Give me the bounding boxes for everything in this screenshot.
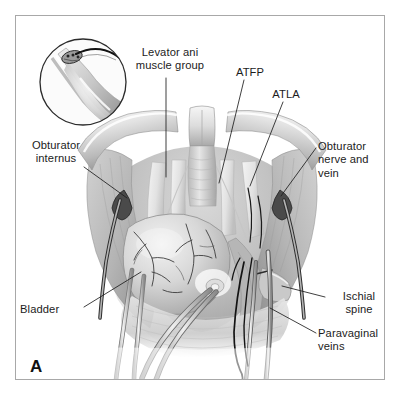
label-obturator-nerve-and-vein: Obturator nerve and vein <box>318 140 396 180</box>
label-paravaginal-veins: Paravaginal veins <box>318 327 396 354</box>
label-bladder: Bladder <box>20 303 82 316</box>
panel-letter: A <box>30 357 42 377</box>
label-levator-ani-muscle-group: Levator ani muscle group <box>122 46 218 73</box>
label-atla: ATLA <box>264 88 308 101</box>
label-ischial-spine: Ischial spine <box>328 290 390 317</box>
figure-container: Levator ani muscle group ATFP ATLA Obtur… <box>0 0 402 395</box>
label-obturator-internus: Obturator internus <box>14 139 98 166</box>
label-atfp: ATFP <box>228 66 272 79</box>
